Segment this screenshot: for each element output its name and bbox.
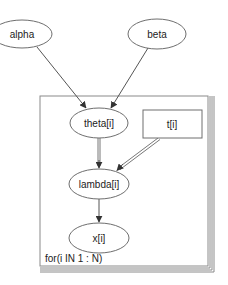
edge-beta-theta[interactable] [111, 48, 148, 108]
node-beta[interactable]: beta [128, 19, 186, 49]
edge-alpha-theta[interactable] [37, 47, 86, 108]
node-label: theta[i] [84, 118, 114, 129]
node-t[interactable]: t[i] [143, 110, 202, 138]
node-theta[interactable]: theta[i] [70, 108, 128, 138]
node-label: beta [147, 29, 167, 40]
node-label: alpha [10, 29, 35, 40]
node-label: x[i] [93, 233, 106, 244]
node-alpha[interactable]: alpha [0, 20, 52, 48]
edge-t-lambda[interactable] [117, 138, 160, 171]
node-x[interactable]: x[i] [69, 223, 129, 253]
node-label: lambda[i] [79, 179, 120, 190]
doodle-diagram: for(i IN 1 : N) alpha beta theta[i] [0, 0, 228, 285]
node-label: t[i] [167, 119, 178, 130]
edge-theta-lambda[interactable] [98, 138, 100, 168]
node-lambda[interactable]: lambda[i] [69, 169, 129, 199]
plate-label: for(i IN 1 : N) [45, 253, 102, 264]
